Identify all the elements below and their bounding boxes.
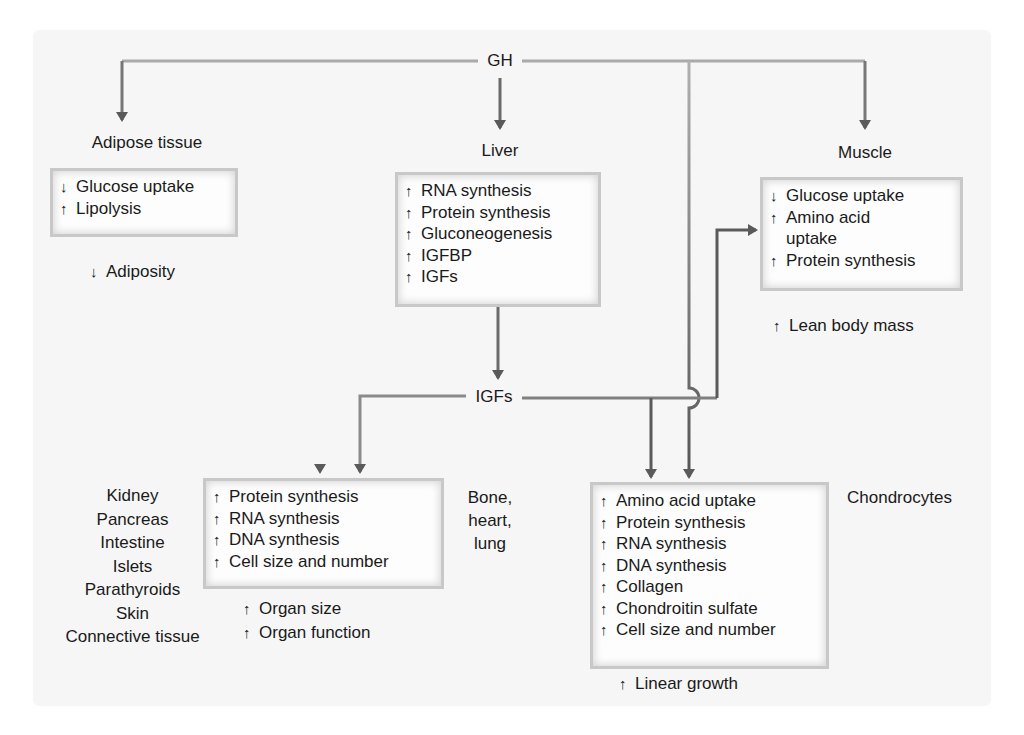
effect-row: ↑Protein synthesis — [600, 512, 819, 534]
down-arrow-icon: ↓ — [60, 176, 76, 198]
outcome-row: ↑Organ size — [243, 597, 371, 621]
up-arrow-icon: ↑ — [773, 316, 789, 336]
up-arrow-icon: ↑ — [213, 529, 229, 551]
liver-title: Liver — [460, 141, 540, 161]
effect-row: ↑Protein synthesis — [213, 486, 434, 508]
up-arrow-icon: ↑ — [770, 207, 786, 229]
tissue-pancreas: Pancreas — [45, 508, 220, 532]
tissue-connective: Connective tissue — [45, 625, 220, 649]
effect-row: uptake — [770, 228, 953, 250]
adipose-title: Adipose tissue — [62, 133, 232, 153]
chondrocytes-outcome: ↑Linear growth — [619, 674, 738, 694]
muscle-outcome: ↑Lean body mass — [773, 316, 914, 336]
up-arrow-icon: ↑ — [213, 486, 229, 508]
effect-row: ↑Cell size and number — [600, 619, 819, 641]
effect-row: ↑Gluconeogenesis — [405, 223, 591, 245]
up-arrow-icon: ↑ — [213, 508, 229, 530]
arrow-gh-chondrocytes — [689, 61, 699, 477]
chondrocytes-title: Chondrocytes — [847, 488, 952, 508]
gh-node: GH — [478, 51, 522, 71]
tissue-intestine: Intestine — [45, 531, 220, 555]
up-arrow-icon: ↑ — [600, 555, 616, 577]
effect-row: ↑DNA synthesis — [213, 529, 434, 551]
effect-row: ↑DNA synthesis — [600, 555, 819, 577]
tissue-islets: Islets — [45, 555, 220, 579]
effect-row: ↓Glucose uptake — [60, 176, 228, 198]
muscle-effects-box: ↓Glucose uptake ↑Amino acid uptake ↑Prot… — [760, 177, 963, 291]
tissue-parathyroids: Parathyroids — [45, 578, 220, 602]
organ-effects-box: ↑Protein synthesis ↑RNA synthesis ↑DNA s… — [203, 478, 444, 589]
up-arrow-icon: ↑ — [405, 202, 421, 224]
down-arrow-icon: ↓ — [770, 185, 786, 207]
organ-outcomes: ↑Organ size ↑Organ function — [243, 597, 371, 644]
effect-row: ↑RNA synthesis — [600, 533, 819, 555]
label-heart: heart, — [460, 509, 520, 532]
arrow-igfs-organs — [360, 396, 466, 472]
up-arrow-icon: ↑ — [243, 621, 259, 645]
up-arrow-icon: ↑ — [600, 533, 616, 555]
up-arrow-icon: ↑ — [600, 619, 616, 641]
adipose-effects-box: ↓Glucose uptake ↑Lipolysis — [50, 168, 238, 237]
gh-label: GH — [487, 51, 513, 70]
muscle-title: Muscle — [815, 143, 915, 163]
label-bone: Bone, — [460, 486, 520, 509]
tissue-skin: Skin — [45, 602, 220, 626]
effect-row: ↑Lipolysis — [60, 198, 228, 220]
up-arrow-icon: ↑ — [619, 674, 635, 694]
effect-row: ↑Protein synthesis — [405, 202, 591, 224]
label-lung: lung — [460, 532, 520, 555]
effect-row: ↑RNA synthesis — [405, 180, 591, 202]
up-arrow-icon: ↑ — [600, 576, 616, 598]
effect-row: ↑Cell size and number — [213, 551, 434, 573]
effect-row: ↑IGFBP — [405, 245, 591, 267]
effect-row: ↑Amino acid — [770, 207, 953, 229]
effect-row: ↓Glucose uptake — [770, 185, 953, 207]
effect-row: ↑Protein synthesis — [770, 250, 953, 272]
up-arrow-icon: ↑ — [405, 223, 421, 245]
bone-heart-lung-label: Bone, heart, lung — [460, 486, 520, 555]
up-arrow-icon: ↑ — [405, 245, 421, 267]
outcome-row: ↑Organ function — [243, 621, 371, 645]
down-arrow-icon: ↓ — [90, 262, 106, 282]
up-arrow-icon: ↑ — [243, 597, 259, 621]
up-arrow-icon: ↑ — [600, 512, 616, 534]
effect-row: ↑Collagen — [600, 576, 819, 598]
igfs-label: IGFs — [476, 387, 513, 406]
effect-row: ↑Chondroitin sulfate — [600, 598, 819, 620]
effect-row: ↑IGFs — [405, 266, 591, 288]
up-arrow-icon: ↑ — [600, 598, 616, 620]
up-arrow-icon: ↑ — [213, 551, 229, 573]
igfs-node: IGFs — [466, 387, 522, 407]
arrow-igfs-muscle — [717, 230, 756, 398]
liver-effects-box: ↑RNA synthesis ↑Protein synthesis ↑Gluco… — [395, 172, 601, 307]
effect-row: ↑Amino acid uptake — [600, 490, 819, 512]
up-arrow-icon: ↑ — [770, 250, 786, 272]
organ-tissue-list: Kidney Pancreas Intestine Islets Parathy… — [45, 484, 220, 649]
chondrocytes-effects-box: ↑Amino acid uptake ↑Protein synthesis ↑R… — [590, 482, 829, 669]
effect-row: ↑RNA synthesis — [213, 508, 434, 530]
up-arrow-icon: ↑ — [600, 490, 616, 512]
up-arrow-icon: ↑ — [405, 266, 421, 288]
up-arrow-icon: ↑ — [60, 198, 76, 220]
adipose-outcome: ↓Adiposity — [90, 262, 175, 282]
tissue-kidney: Kidney — [45, 484, 220, 508]
up-arrow-icon: ↑ — [405, 180, 421, 202]
